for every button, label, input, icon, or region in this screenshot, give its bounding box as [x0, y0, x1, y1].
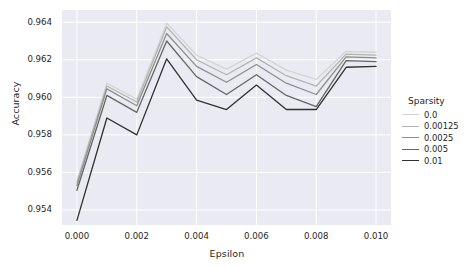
- legend-item[interactable]: 0.0025: [402, 132, 468, 144]
- y-tick-label: 0.958: [8, 129, 52, 139]
- legend-line-swatch: [402, 160, 419, 161]
- legend-item-label: 0.005: [424, 144, 448, 154]
- legend-line-swatch: [402, 126, 419, 127]
- legend-line-swatch: [402, 137, 419, 138]
- y-tick-label: 0.962: [8, 54, 52, 64]
- x-tick-label: 0.002: [112, 231, 162, 241]
- x-tick-label: 0.010: [351, 231, 401, 241]
- x-tick-label: 0.000: [52, 231, 102, 241]
- legend-line-swatch: [402, 114, 419, 115]
- legend-item[interactable]: 0.0: [402, 109, 468, 121]
- y-tick-label: 0.954: [8, 204, 52, 214]
- legend-item-label: 0.0: [424, 110, 437, 120]
- y-tick-label: 0.956: [8, 167, 52, 177]
- chart-figure: Accuracy Epsilon 0.9540.9560.9580.9600.9…: [0, 0, 470, 269]
- x-tick-label: 0.006: [231, 231, 281, 241]
- legend-item[interactable]: 0.005: [402, 144, 468, 156]
- line-chart-plot: [0, 0, 470, 269]
- legend-item-label: 0.00125: [424, 121, 459, 131]
- x-tick-label: 0.008: [291, 231, 341, 241]
- y-tick-label: 0.960: [8, 92, 52, 102]
- x-axis-label: Epsilon: [62, 248, 392, 259]
- legend-item[interactable]: 0.01: [402, 155, 468, 167]
- legend-line-swatch: [402, 149, 419, 150]
- legend-title: Sparsity: [408, 96, 468, 106]
- y-tick-label: 0.964: [8, 17, 52, 27]
- legend-item-label: 0.0025: [424, 133, 453, 143]
- legend: Sparsity 0.00.001250.00250.0050.01: [402, 96, 468, 167]
- legend-entries: 0.00.001250.00250.0050.01: [402, 109, 468, 167]
- legend-item-label: 0.01: [424, 156, 443, 166]
- x-tick-label: 0.004: [172, 231, 222, 241]
- y-axis-label: Accuracy: [10, 69, 21, 139]
- legend-item[interactable]: 0.00125: [402, 121, 468, 133]
